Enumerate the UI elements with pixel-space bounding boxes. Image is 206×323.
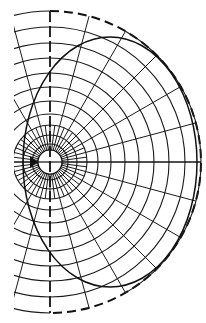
outer-radial-line xyxy=(60,16,90,126)
outer-radial-line xyxy=(0,31,32,130)
outer-radial-line xyxy=(86,123,196,153)
diagram-canvas xyxy=(0,0,206,323)
inner-radial-line xyxy=(58,136,76,154)
outer-radial-line xyxy=(0,194,32,293)
polar-grid-diagram xyxy=(0,0,206,323)
inner-radial-line xyxy=(24,170,42,188)
outer-radial-line xyxy=(86,172,196,202)
outer-radial-line xyxy=(11,198,41,308)
outer-radial-line xyxy=(11,16,41,126)
inner-radial-line xyxy=(58,170,76,188)
inner-radial-line xyxy=(24,136,42,154)
outer-radial-line xyxy=(60,198,90,308)
